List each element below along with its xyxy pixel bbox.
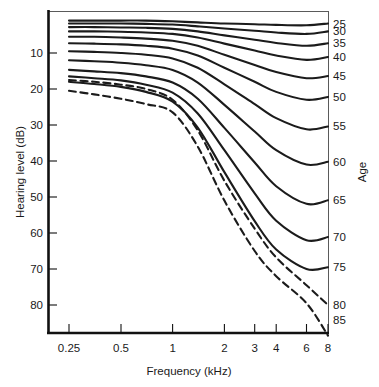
age-label-30: 30 — [333, 25, 346, 37]
y-tick-label: 50 — [30, 191, 43, 203]
y-tick-label: 60 — [30, 227, 43, 239]
age-label-60: 60 — [333, 156, 346, 168]
x-tick-label: 2 — [221, 342, 227, 354]
x-tick-label: 4 — [273, 342, 280, 354]
y-tick-label: 40 — [30, 155, 43, 167]
age-label-55: 55 — [333, 120, 346, 132]
y-tick-label: 70 — [30, 263, 43, 275]
right-axis-title: Age — [356, 162, 368, 182]
y-tick-label: 80 — [30, 299, 43, 311]
y-axis-title: Hearing level (dB) — [14, 126, 26, 218]
x-tick-label: 6 — [303, 342, 309, 354]
x-tick-label: 3 — [251, 342, 257, 354]
x-axis-title: Frequency (kHz) — [147, 365, 232, 377]
y-tick-label: 20 — [30, 83, 43, 95]
y-tick-label: 30 — [30, 119, 43, 131]
hearing-level-line-chart: 10 20 30 40 50 60 — [0, 0, 379, 387]
age-label-65: 65 — [333, 194, 346, 206]
y-tick-label: 10 — [30, 47, 43, 59]
x-tick-label: 8 — [325, 342, 331, 354]
x-tick-label: 0.25 — [58, 342, 80, 354]
figure-container: 10 20 30 40 50 60 — [0, 0, 379, 387]
age-label-40: 40 — [333, 51, 346, 63]
age-label-45: 45 — [333, 70, 346, 82]
age-label-70: 70 — [333, 231, 346, 243]
age-label-80: 80 — [333, 299, 346, 311]
age-label-50: 50 — [333, 91, 346, 103]
age-label-85: 85 — [333, 314, 346, 326]
x-tick-label: 1 — [169, 342, 175, 354]
age-label-35: 35 — [333, 37, 346, 49]
x-tick-label: 0.5 — [113, 342, 129, 354]
age-label-75: 75 — [333, 261, 346, 273]
